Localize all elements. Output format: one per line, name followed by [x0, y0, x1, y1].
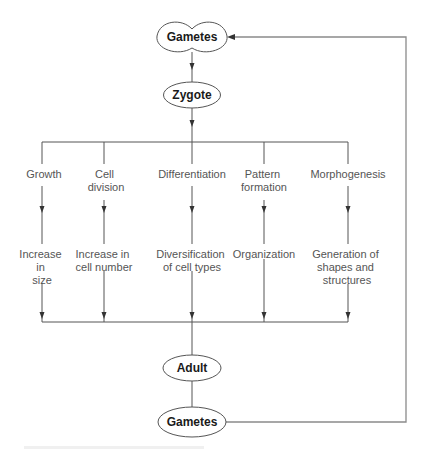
process-label-morphogenesis: Morphogenesis: [310, 168, 386, 180]
arrow-down-icon: [346, 312, 351, 319]
node-label: Gametes: [167, 30, 218, 44]
arrow-down-icon: [102, 206, 107, 213]
outcome-label-differentiation: Diversification of cell types: [156, 248, 228, 273]
arrow-down-icon: [190, 120, 195, 127]
process-label-pattern-formation: Pattern formation: [241, 168, 287, 193]
process-label-differentiation: Differentiation: [158, 168, 226, 180]
arrow-down-icon: [346, 206, 351, 213]
arrow-down-icon: [40, 206, 45, 213]
outcome-label-cell-division: Increase in cell number: [76, 248, 133, 273]
node-label: Zygote: [172, 88, 212, 102]
node-label: Adult: [177, 361, 208, 375]
outcome-label-morphogenesis: Generation of shapes and structures: [312, 248, 382, 286]
development-diagram: Gametes Zygote Adult Gametes Growth Cell…: [0, 0, 425, 451]
feedback-line: [226, 37, 406, 422]
arrow-down-icon: [190, 63, 195, 70]
feedback-arrow-icon: [227, 34, 235, 40]
arrow-down-icon: [40, 312, 45, 319]
arrow-down-icon: [102, 312, 107, 319]
arrow-down-icon: [190, 312, 195, 319]
process-label-growth: Growth: [26, 168, 61, 180]
node-gametes-bottom: Gametes: [158, 407, 226, 437]
outcome-label-pattern-formation: Organization: [233, 248, 295, 260]
node-gametes-top: Gametes: [157, 22, 227, 52]
node-adult: Adult: [163, 355, 221, 381]
node-zygote: Zygote: [164, 82, 221, 108]
outcome-label-growth: Increase in size: [19, 248, 64, 286]
arrow-down-icon: [262, 312, 267, 319]
faint-caption: [24, 446, 204, 449]
arrow-down-icon: [190, 206, 195, 213]
arrow-down-icon: [262, 206, 267, 213]
node-label: Gametes: [167, 415, 218, 429]
process-label-cell-division: Cell division: [88, 168, 125, 193]
